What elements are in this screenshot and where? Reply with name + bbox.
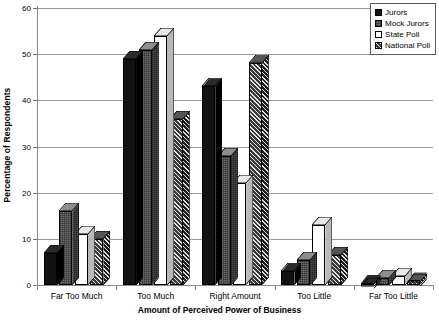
bar-side	[167, 28, 174, 285]
bar-side	[325, 217, 332, 285]
x-axis-line	[33, 285, 433, 286]
bar-too-much-jurors	[123, 51, 143, 285]
legend-item-national-poll[interactable]: National Poll	[375, 40, 430, 51]
y-tick-label: 40	[5, 96, 31, 105]
x-tick-label-too-much: Too Much	[137, 291, 174, 301]
category-separator	[275, 285, 276, 290]
x-axis-title: Amount of Perceived Power of Business	[0, 305, 439, 315]
bar-side	[246, 175, 253, 285]
legend-label: State Poll	[385, 29, 419, 40]
y-tick-label: 60	[5, 4, 31, 13]
category-separator	[37, 285, 38, 290]
bar-side	[262, 55, 269, 285]
bar-side	[88, 226, 95, 285]
legend-label: National Poll	[385, 40, 430, 51]
bar-front-face	[281, 271, 294, 285]
legend-swatch-icon	[375, 9, 382, 16]
dot-overlay	[72, 203, 79, 285]
category-separator	[195, 285, 196, 290]
bar-side	[103, 231, 110, 285]
bar-side	[152, 42, 159, 285]
dot-overlay	[231, 148, 238, 285]
bar-chart: Percentage of Respondents 0102030405060 …	[0, 0, 439, 323]
hatch-overlay	[262, 55, 269, 285]
bar-right-amount-jurors	[202, 78, 222, 285]
bar-far-too-much-jurors	[44, 245, 64, 285]
bar-side	[183, 111, 190, 285]
bar-side	[136, 51, 143, 285]
x-tick-label-far-too-much: Far Too Much	[51, 291, 103, 301]
x-tick-label-far-too-little: Far Too Little	[369, 291, 418, 301]
x-tick-label-right-amount: Right Amount	[209, 291, 260, 301]
dot-overlay	[376, 21, 381, 26]
hatch-overlay	[103, 231, 110, 285]
bar-front-face	[123, 59, 136, 285]
bar-side	[231, 148, 238, 285]
hatch-overlay	[183, 111, 190, 285]
legend-swatch-icon	[375, 31, 382, 38]
category-separator	[433, 285, 434, 290]
y-tick-label: 0	[5, 281, 31, 290]
legend-label: Jurors	[385, 7, 407, 18]
legend: JurorsMock JurorsState PollNational Poll	[370, 3, 436, 55]
bar-side	[72, 203, 79, 285]
y-tick-label: 10	[5, 235, 31, 244]
category-separator	[116, 285, 117, 290]
x-tick-label-too-little: Too Little	[297, 291, 331, 301]
y-tick-label: 20	[5, 189, 31, 198]
y-tick-label: 50	[5, 50, 31, 59]
legend-item-state-poll[interactable]: State Poll	[375, 29, 430, 40]
legend-swatch-icon	[375, 20, 382, 27]
category-separator	[354, 285, 355, 290]
dot-overlay	[152, 42, 159, 285]
bar-side	[215, 78, 222, 285]
legend-item-jurors[interactable]: Jurors	[375, 7, 430, 18]
legend-label: Mock Jurors	[385, 18, 429, 29]
bar-too-little-jurors	[281, 263, 301, 285]
bar-far-too-little-jurors	[361, 275, 381, 285]
hatch-overlay	[376, 43, 381, 48]
bar-front-face	[202, 86, 215, 285]
bar-front-face	[361, 283, 374, 285]
bar-front-face	[44, 253, 57, 285]
y-tick-label: 30	[5, 143, 31, 152]
legend-item-mock-jurors[interactable]: Mock Jurors	[375, 18, 430, 29]
legend-swatch-icon	[375, 42, 382, 49]
